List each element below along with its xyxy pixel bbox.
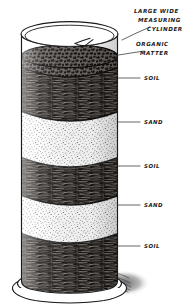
label-cylinder-line-3: CYLINDER — [147, 26, 183, 32]
sediment-column — [18, 34, 122, 296]
label-soil-1: SOIL — [144, 75, 160, 81]
label-sand-1: SAND — [144, 119, 163, 125]
label-soil-2: SOIL — [144, 163, 160, 169]
label-soil-3: SOIL — [144, 243, 160, 249]
label-cylinder-line-1: LARGE WIDE — [134, 8, 179, 14]
label-cylinder-line-2: MEASURING — [138, 17, 181, 23]
label-organic-line-2: MATTER — [140, 50, 169, 56]
cylinder-rim — [21, 22, 118, 47]
label-sand-2: SAND — [144, 202, 163, 208]
label-organic-line-1: ORGANIC — [136, 41, 169, 47]
cylinder-illustration: LARGE WIDE MEASURING CYLINDER ORGANIC MA… — [0, 0, 189, 308]
illustration-canvas: LARGE WIDE MEASURING CYLINDER ORGANIC MA… — [0, 0, 189, 308]
